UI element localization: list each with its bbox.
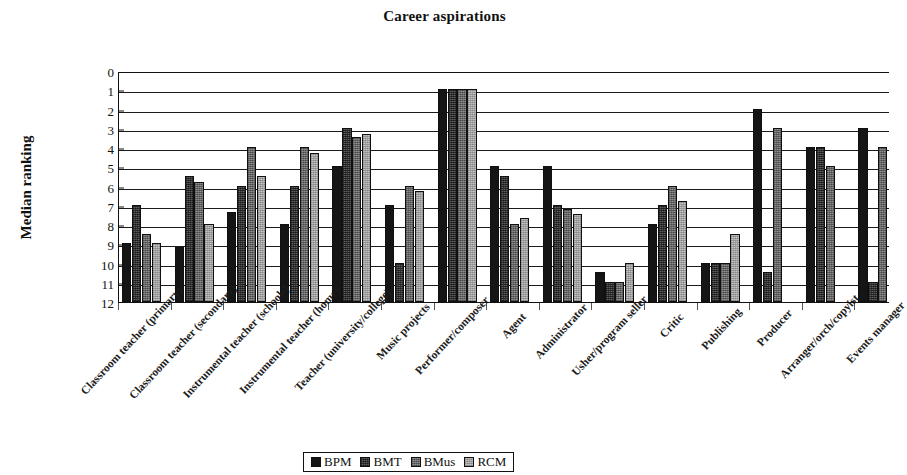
- bar: [648, 224, 657, 302]
- bar: [247, 147, 256, 302]
- y-axis-tick-label: 1: [108, 85, 115, 98]
- bar: [332, 166, 341, 302]
- legend-label: BMus: [424, 455, 456, 468]
- y-axis-tick-label: 6: [108, 181, 115, 194]
- y-axis-tick-mark: [118, 206, 124, 207]
- bar: [711, 263, 720, 303]
- bar: [701, 263, 710, 303]
- bar: [122, 243, 131, 302]
- bar: [763, 272, 772, 302]
- x-axis-category-label: Music projects: [374, 301, 432, 362]
- bar: [438, 89, 447, 302]
- bar: [753, 109, 762, 303]
- x-axis-category-label: Publishing: [699, 305, 744, 352]
- x-axis-category-label: Agent: [499, 311, 528, 341]
- bar: [194, 182, 203, 302]
- y-axis-title: Median ranking: [18, 80, 36, 295]
- bar: [658, 205, 667, 302]
- y-axis-tick-mark: [118, 149, 124, 150]
- bar: [605, 282, 614, 302]
- y-axis-tick-label: 8: [108, 220, 115, 233]
- bar: [563, 209, 572, 302]
- bar: [362, 134, 371, 302]
- x-axis-category-label: Teacher (university/college): [292, 286, 393, 393]
- legend-swatch-icon: [360, 457, 370, 467]
- bar: [573, 214, 582, 302]
- bar: [858, 128, 867, 302]
- bar: [142, 234, 151, 302]
- bar: [510, 224, 519, 302]
- bar: [204, 224, 213, 302]
- x-axis-category-labels: Classroom teacher (primary)Classroom tea…: [0, 303, 889, 443]
- bar: [257, 176, 266, 302]
- legend-item: BMus: [411, 455, 456, 468]
- bar: [615, 282, 624, 302]
- y-axis-tick-mark: [118, 91, 124, 92]
- legend-swatch-icon: [411, 457, 421, 467]
- bar: [668, 186, 677, 303]
- bar: [595, 272, 604, 302]
- legend-label: BMT: [373, 455, 401, 468]
- legend-item: RCM: [464, 455, 506, 468]
- y-axis-tick-label: 3: [108, 123, 115, 136]
- bar: [342, 128, 351, 302]
- y-axis-tick-label: 10: [101, 258, 114, 271]
- bar: [816, 147, 825, 302]
- y-axis-tick-label: 7: [108, 200, 115, 213]
- bar: [132, 205, 141, 302]
- bar: [467, 89, 476, 302]
- y-axis-tick-label: 2: [108, 104, 115, 117]
- legend-label: BPM: [324, 455, 351, 468]
- bar: [490, 166, 499, 302]
- y-axis-tick-label: 0: [108, 66, 115, 79]
- legend-item: BPM: [311, 455, 351, 468]
- x-axis-category-label: Arranger/orch/copyist: [777, 292, 861, 380]
- y-axis-tick-mark: [118, 245, 124, 246]
- bar: [405, 186, 414, 303]
- legend-item: BMT: [360, 455, 401, 468]
- bar: [152, 243, 161, 302]
- bar: [720, 263, 729, 303]
- bar: [678, 201, 687, 302]
- chart-title: Career aspirations: [0, 8, 889, 25]
- chart-legend: BPMBMTBMusRCM: [303, 452, 514, 472]
- bar: [395, 263, 404, 303]
- bar: [625, 263, 634, 303]
- bar: [878, 147, 887, 302]
- bar: [457, 89, 466, 302]
- bar: [300, 147, 309, 302]
- bar: [415, 191, 424, 302]
- bar: [352, 137, 361, 302]
- y-axis-tick-mark: [118, 226, 124, 227]
- y-axis-tick-labels: 0123456789101112: [86, 72, 114, 303]
- bar: [773, 128, 782, 302]
- y-axis-tick-mark: [118, 168, 124, 169]
- x-axis-category-label: Events manager: [844, 299, 907, 365]
- bar: [806, 147, 815, 302]
- bar: [237, 186, 246, 303]
- y-axis-tick-mark: [118, 264, 124, 265]
- bar: [520, 218, 529, 302]
- x-axis-category-label: Critic: [657, 311, 685, 340]
- bar: [500, 176, 509, 302]
- bar: [543, 166, 552, 302]
- plot-area: [118, 72, 889, 303]
- bar: [185, 176, 194, 302]
- x-axis-category-label: Administrator: [532, 301, 589, 361]
- x-axis-category-label: Producer: [755, 307, 795, 349]
- legend-label: RCM: [477, 455, 506, 468]
- y-axis-tick-mark: [118, 110, 124, 111]
- bars-layer: [119, 73, 889, 302]
- bar: [310, 153, 319, 302]
- bar: [553, 205, 562, 302]
- bar: [448, 89, 457, 302]
- y-axis-tick-label: 4: [108, 143, 115, 156]
- bar: [826, 166, 835, 302]
- y-axis-tick-mark: [118, 129, 124, 130]
- bar: [290, 186, 299, 303]
- y-axis-tick-mark: [118, 283, 124, 284]
- legend-swatch-icon: [311, 457, 321, 467]
- legend-swatch-icon: [464, 457, 474, 467]
- y-axis-tick-mark: [118, 187, 124, 188]
